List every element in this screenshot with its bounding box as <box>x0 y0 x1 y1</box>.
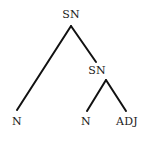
node-n-left: N <box>12 116 22 128</box>
node-adj: ADJ <box>116 116 138 128</box>
node-n-middle: N <box>81 116 91 128</box>
syntax-tree-diagram: SN SN N N ADJ <box>0 0 150 149</box>
node-root-sn: SN <box>62 9 80 21</box>
edge-sn2-to-adj <box>106 80 126 111</box>
edge-sn2-to-n2 <box>87 80 106 111</box>
node-sn-child: SN <box>88 65 106 77</box>
edge-root-to-n1 <box>17 26 71 110</box>
edge-root-to-sn2 <box>71 26 96 62</box>
